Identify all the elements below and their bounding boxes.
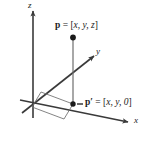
point-p-components: x, y, z [74, 20, 95, 30]
axis-label-y: y [96, 47, 100, 56]
point-p-bracket-close: ] [95, 20, 98, 30]
axis-label-x: x [134, 116, 138, 125]
figure-3d-point-projection: z y x p = [x, y, z] p′ = [x, y, 0] [0, 0, 149, 141]
point-label-pprime: p′ = [x, y, 0] [85, 98, 132, 108]
point-pprime-components: x, y, 0 [106, 97, 128, 107]
point-p-marker [70, 35, 76, 41]
axis-label-z: z [28, 1, 32, 10]
point-p-equals: = [60, 20, 70, 30]
point-pprime-marker [70, 101, 75, 106]
point-label-p: p = [x, y, z] [55, 21, 98, 31]
point-pprime-bracket-close: ] [128, 97, 131, 107]
guide-line-top [41, 92, 73, 104]
projection-guide-lines [32, 92, 73, 119]
point-pprime-equals: = [93, 97, 103, 107]
